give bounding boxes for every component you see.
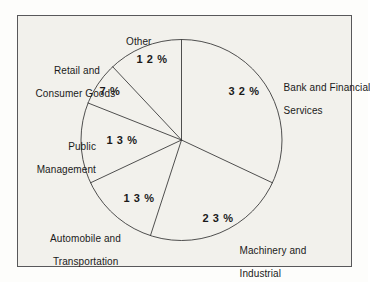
pie-label-public-management-line1: Public	[68, 141, 96, 152]
pie-percent-machinery: 2 3 %	[196, 212, 240, 225]
pie-label-automobile-line2: Transportation	[53, 256, 119, 267]
pie-percent-automobile: 1 3 %	[117, 192, 161, 205]
pie-label-public-management-line2: Management	[37, 164, 96, 175]
pie-label-other: Other	[105, 24, 161, 59]
pie-label-automobile-line1: Automobile and	[50, 233, 121, 244]
divider-317deg	[113, 67, 182, 140]
pie-label-machinery: Machinery and Industrial	[228, 233, 328, 282]
pie-percent-public-management: 1 3 %	[100, 134, 144, 147]
pie-label-machinery-line2: Industrial	[240, 268, 282, 279]
pie-label-retail-line1: Retail and	[54, 65, 100, 76]
pie-label-bank: Bank and Financial Services	[272, 70, 356, 129]
pie-label-retail-line2: Consumer Goods	[36, 88, 116, 99]
pie-label-bank-line2: Services	[284, 105, 323, 116]
divider-198deg	[150, 140, 181, 236]
pie-label-other-line1: Other	[126, 36, 152, 47]
pie-label-public-management: Public Management	[20, 129, 96, 188]
pie-label-retail: Retail and Consumer Goods	[24, 53, 100, 112]
pie-percent-bank: 3 2 %	[222, 85, 266, 98]
pie-label-automobile: Automobile and Transportation	[32, 221, 128, 280]
pie-label-machinery-line1: Machinery and	[240, 245, 307, 256]
pie-label-bank-line1: Bank and Financial	[284, 82, 370, 93]
divider-115deg	[182, 140, 273, 183]
